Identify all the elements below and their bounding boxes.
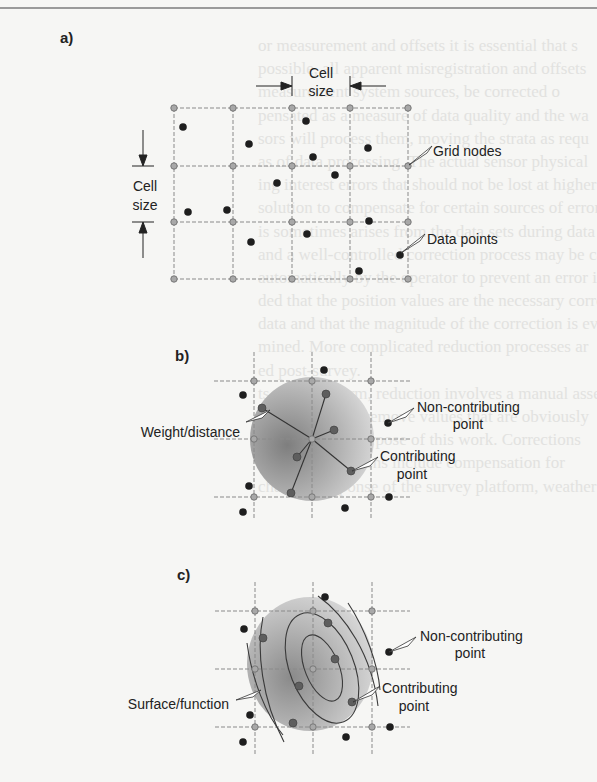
non-contributing-label-c-2: point [455,645,485,661]
data-point [303,230,311,238]
data-point [364,144,372,152]
grid-nodes-pointer-icon [409,146,432,165]
non-contributing-label-b-1: Non-contributing [417,399,520,415]
data-points-label: Data points [427,231,498,247]
data-point [247,238,255,246]
non-contributing-label-b-2: point [453,416,483,432]
grid-node [309,494,315,500]
panel-b: b) Weight/distance Non-contributing poin… [141,347,520,520]
cell-size-vertical-annotation [132,130,154,258]
grid-node [252,724,258,730]
cell-size-horizontal-label-1: Cell [309,65,333,81]
contributing-point [295,682,303,690]
arrow-up-icon [139,222,147,233]
grid-node [405,219,411,225]
grid-node [230,163,236,169]
grid-node [368,436,374,442]
non-contributing-point [239,391,247,399]
panel-b-label: b) [175,347,189,364]
contributing-point [258,404,266,412]
contributing-point [348,698,356,706]
data-point [179,123,187,131]
grid-node [171,105,177,111]
contributing-label-c-2: point [399,698,429,714]
arrow-down-icon [139,155,147,166]
data-point [184,208,192,216]
grid-node [369,666,375,672]
grid-node [171,163,177,169]
contributing-point [330,426,338,434]
non-contributing-pointer-icon-c [389,637,416,652]
grid-node [309,378,315,384]
grid-node [230,105,236,111]
panel-a: a) Cell size [60,29,501,282]
grid-node [252,608,258,614]
cell-size-vertical-label-2: size [133,197,158,213]
non-contributing-point [320,366,328,374]
grid-node [251,494,257,500]
panel-a-label: a) [60,29,73,46]
non-contributing-point [239,738,247,746]
cell-size-vertical-label-1: Cell [133,178,157,194]
grid-nodes-label: Grid nodes [433,143,501,159]
non-contributing-point [341,504,349,512]
data-point [365,217,373,225]
panel-c-label: c) [177,566,190,583]
contributing-label-b-2: point [397,466,427,482]
non-contributing-point [240,625,248,633]
grid-node [347,219,353,225]
surface-function-label: Surface/function [128,696,229,712]
contributing-point [331,655,339,663]
cell-size-horizontal-label-2: size [309,83,334,99]
grid-node [230,219,236,225]
contributing-label-b-1: Contributing [380,448,456,464]
grid-a [174,108,408,279]
non-contributing-point [245,482,253,490]
data-point [302,117,310,125]
contributing-label-c-1: Contributing [382,680,458,696]
contributing-point [287,489,295,497]
grid-node [405,276,411,282]
data-point [331,171,339,179]
contributing-point [347,467,355,475]
grid-node [251,436,257,442]
grid-node [230,276,236,282]
grid-node [347,105,353,111]
non-contributing-point [321,593,329,601]
arrow-right-icon [281,82,292,90]
panel-c: c) Surface/function Non-contributing poi… [128,566,523,754]
data-point [309,153,317,161]
grid-node [289,276,295,282]
data-point [245,140,253,148]
data-point [223,206,231,214]
grid-node [310,666,316,672]
grid-node [369,608,375,614]
grid-node [347,276,353,282]
weight-distance-label: Weight/distance [141,424,241,440]
grid-node [369,724,375,730]
contributing-point [322,390,330,398]
non-contributing-point [385,493,393,501]
non-contributing-point [246,711,254,719]
contributing-point [293,453,301,461]
data-point [355,267,363,275]
grid-node [347,163,353,169]
grid-node [171,219,177,225]
contributing-point [324,619,332,627]
grid-node [251,378,257,384]
grid-node [309,436,315,442]
non-contributing-point [239,508,247,516]
non-contributing-label-c-1: Non-contributing [420,628,523,644]
non-contributing-point [386,723,394,731]
arrow-left-icon [350,82,361,90]
grid-node [289,219,295,225]
data-point [273,179,281,187]
grid-node [289,105,295,111]
interpolation-figure: a) Cell size [0,0,597,782]
grid-node [289,163,295,169]
non-contributing-point [342,733,350,741]
contributing-point [289,719,297,727]
non-contributing-pointer-icon-b [388,408,414,423]
contributing-point [259,634,267,642]
grid-node [310,608,316,614]
